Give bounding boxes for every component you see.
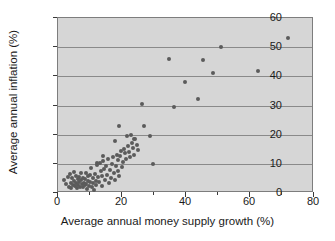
data-point bbox=[132, 137, 136, 141]
data-point bbox=[219, 45, 223, 49]
data-point bbox=[79, 171, 83, 175]
x-tick-label: 60 bbox=[229, 196, 269, 207]
data-point bbox=[118, 154, 122, 158]
x-tick-mark bbox=[185, 192, 186, 197]
data-point bbox=[116, 169, 120, 173]
data-point bbox=[114, 164, 118, 168]
data-point bbox=[142, 124, 146, 128]
data-point bbox=[97, 180, 101, 184]
data-point bbox=[100, 174, 104, 178]
x-tick-mark bbox=[249, 192, 250, 197]
data-point bbox=[113, 178, 117, 182]
y-tick-label: 60 bbox=[252, 12, 282, 23]
x-tick-label: 20 bbox=[101, 196, 141, 207]
data-point bbox=[120, 165, 124, 169]
data-point bbox=[107, 181, 111, 185]
y-tick-mark bbox=[53, 163, 57, 164]
y-tick-label: 10 bbox=[252, 158, 282, 169]
data-point bbox=[183, 80, 187, 84]
data-point bbox=[196, 97, 200, 101]
data-point bbox=[286, 36, 290, 40]
data-point bbox=[106, 157, 110, 161]
data-point bbox=[92, 188, 96, 192]
data-point bbox=[130, 141, 134, 145]
data-point bbox=[100, 184, 104, 188]
data-point bbox=[116, 158, 120, 162]
y-tick-mark bbox=[53, 75, 57, 76]
data-point bbox=[96, 175, 100, 179]
x-minor-tick-mark bbox=[281, 192, 282, 195]
scatter-chart: Average annual inflation (%) Average ann… bbox=[0, 0, 335, 241]
data-point bbox=[172, 105, 176, 109]
data-point bbox=[94, 183, 98, 187]
y-tick-label: 50 bbox=[252, 41, 282, 52]
y-tick-mark bbox=[53, 17, 57, 18]
data-point bbox=[117, 174, 121, 178]
data-point bbox=[151, 162, 155, 166]
y-axis-label: Average annual inflation (%) bbox=[7, 17, 19, 187]
x-tick-label: 80 bbox=[293, 196, 333, 207]
data-point bbox=[136, 148, 140, 152]
y-tick-label: 40 bbox=[252, 70, 282, 81]
data-point bbox=[126, 144, 130, 148]
y-tick-label: 20 bbox=[252, 129, 282, 140]
data-point bbox=[132, 153, 136, 157]
data-point bbox=[148, 134, 152, 138]
y-tick-mark bbox=[53, 46, 57, 47]
x-tick-label: 40 bbox=[165, 196, 205, 207]
data-point bbox=[127, 150, 131, 154]
data-point bbox=[111, 155, 115, 159]
y-tick-label: 30 bbox=[252, 100, 282, 111]
data-point bbox=[117, 124, 121, 128]
data-point bbox=[101, 154, 105, 158]
y-tick-mark bbox=[53, 105, 57, 106]
data-point bbox=[89, 166, 93, 170]
x-minor-tick-mark bbox=[153, 192, 154, 195]
x-tick-mark bbox=[57, 192, 58, 197]
x-tick-mark bbox=[121, 192, 122, 197]
data-point bbox=[211, 71, 215, 75]
y-tick-mark bbox=[53, 134, 57, 135]
data-point bbox=[108, 168, 112, 172]
data-point bbox=[131, 146, 135, 150]
x-axis-label: Average annual money supply growth (%) bbox=[0, 215, 335, 227]
data-point bbox=[201, 58, 205, 62]
data-point bbox=[101, 159, 105, 163]
data-point bbox=[135, 143, 139, 147]
data-point bbox=[167, 57, 171, 61]
x-tick-mark bbox=[313, 192, 314, 197]
data-point bbox=[113, 139, 117, 143]
x-minor-tick-mark bbox=[217, 192, 218, 195]
x-minor-tick-mark bbox=[89, 192, 90, 195]
x-tick-label: 0 bbox=[37, 196, 77, 207]
